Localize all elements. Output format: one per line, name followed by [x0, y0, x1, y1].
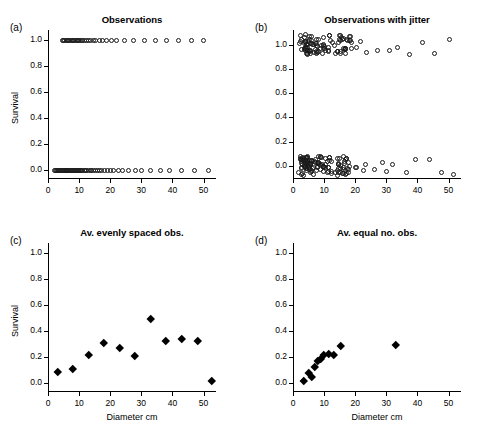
y-axis-title-a: Survival — [10, 92, 20, 124]
x-tick-a-0 — [48, 179, 49, 183]
panel-label-c: (c) — [10, 235, 22, 246]
x-tick-label-a-2: 20 — [98, 185, 122, 195]
y-tick-d-5 — [289, 253, 293, 254]
data-point-c-5 — [131, 352, 139, 360]
y-tick-b-4 — [289, 69, 293, 70]
data-point-a-46 — [120, 168, 125, 173]
x-tick-b-0 — [293, 179, 294, 183]
y-tick-c-4 — [44, 279, 48, 280]
y-tick-label-a-5: 1.0 — [14, 34, 42, 44]
y-tick-label-b-5: 1.0 — [259, 39, 287, 49]
y-tick-a-2 — [44, 118, 48, 119]
data-point-a-84 — [122, 38, 127, 43]
data-point-b-extra-149 — [303, 46, 308, 51]
data-point-b-extra-20 — [349, 46, 354, 51]
x-tick-d-4 — [417, 392, 418, 396]
y-tick-b-3 — [289, 93, 293, 94]
data-point-b-87 — [395, 45, 400, 50]
panel-title-b: Observations with jitter — [293, 14, 461, 25]
x-tick-a-1 — [79, 179, 80, 183]
x-tick-b-5 — [449, 179, 450, 183]
data-point-b-45 — [361, 168, 366, 173]
y-tick-label-c-4: 0.8 — [14, 273, 42, 283]
x-tick-c-0 — [48, 392, 49, 396]
y-tick-label-c-0: 0.0 — [14, 377, 42, 387]
y-tick-label-a-0: 0.0 — [14, 164, 42, 174]
y-tick-label-d-0: 0.0 — [259, 377, 287, 387]
data-point-b-extra-147 — [346, 170, 351, 175]
data-point-c-9 — [193, 336, 201, 344]
data-point-b-54 — [439, 170, 444, 175]
x-tick-d-2 — [355, 392, 356, 396]
data-point-d-9 — [337, 342, 345, 350]
y-tick-label-d-2: 0.4 — [259, 325, 287, 335]
x-tick-label-c-3: 30 — [129, 398, 153, 408]
data-point-c-8 — [178, 335, 186, 343]
y-tick-label-b-0: 0.0 — [259, 160, 287, 170]
data-point-b-48 — [380, 160, 385, 165]
data-point-a-89 — [176, 38, 181, 43]
panel-label-d: (d) — [255, 235, 267, 246]
x-tick-label-c-4: 40 — [160, 398, 184, 408]
data-point-b-90 — [432, 51, 437, 56]
x-axis-line-a — [48, 178, 216, 179]
x-tick-label-b-4: 40 — [405, 185, 429, 195]
data-point-b-extra-130 — [342, 159, 347, 164]
y-tick-label-b-2: 0.4 — [259, 111, 287, 121]
x-tick-c-1 — [79, 392, 80, 396]
data-point-a-91 — [201, 38, 206, 43]
x-tick-label-a-4: 40 — [160, 185, 184, 195]
data-point-b-83 — [358, 39, 363, 44]
data-point-b-89 — [420, 40, 425, 45]
x-tick-b-1 — [324, 179, 325, 183]
x-tick-label-b-5: 50 — [437, 185, 461, 195]
data-point-c-0 — [53, 368, 61, 376]
y-tick-c-0 — [44, 383, 48, 384]
y-axis-line-b — [293, 30, 294, 178]
y-tick-b-5 — [289, 45, 293, 46]
x-tick-d-3 — [386, 392, 387, 396]
y-tick-d-4 — [289, 279, 293, 280]
x-tick-label-a-0: 0 — [36, 185, 60, 195]
x-tick-c-3 — [141, 392, 142, 396]
y-tick-label-c-1: 0.2 — [14, 351, 42, 361]
data-point-a-86 — [142, 38, 147, 43]
figure-panel-grid: (a)Observations0.00.20.40.60.81.00102030… — [0, 0, 497, 436]
data-point-a-90 — [189, 38, 194, 43]
y-tick-a-4 — [44, 66, 48, 67]
data-point-b-46 — [363, 162, 368, 167]
y-tick-d-1 — [289, 357, 293, 358]
x-tick-c-4 — [172, 392, 173, 396]
y-tick-label-d-1: 0.2 — [259, 351, 287, 361]
x-tick-label-c-1: 10 — [67, 398, 91, 408]
panel-title-d: Av. equal no. obs. — [293, 227, 461, 238]
y-tick-label-b-4: 0.8 — [259, 63, 287, 73]
data-point-b-86 — [387, 48, 392, 53]
y-tick-c-3 — [44, 305, 48, 306]
data-point-a-82 — [109, 38, 114, 43]
data-point-b-extra-54 — [299, 172, 304, 177]
data-point-b-extra-121 — [320, 51, 325, 56]
x-tick-label-c-5: 50 — [192, 398, 216, 408]
x-tick-label-a-3: 30 — [129, 185, 153, 195]
y-tick-label-c-5: 1.0 — [14, 247, 42, 257]
y-tick-a-0 — [44, 170, 48, 171]
x-tick-d-5 — [449, 392, 450, 396]
data-point-b-extra-142 — [341, 165, 346, 170]
data-point-b-47 — [372, 167, 377, 172]
data-point-b-79 — [343, 51, 348, 56]
data-point-b-extra-31 — [321, 35, 326, 40]
panel-label-a: (a) — [10, 22, 22, 33]
data-point-b-extra-131 — [316, 37, 321, 42]
panel-title-c: Av. evenly spaced obs. — [48, 227, 216, 238]
data-point-a-52 — [167, 168, 172, 173]
x-tick-label-d-2: 20 — [343, 398, 367, 408]
data-point-b-55 — [451, 172, 456, 177]
x-axis-line-d — [293, 391, 461, 392]
data-point-b-44 — [353, 165, 358, 170]
x-tick-label-d-4: 40 — [405, 398, 429, 408]
data-point-b-extra-64 — [329, 171, 334, 176]
data-point-b-extra-124 — [298, 154, 303, 159]
x-axis-line-b — [293, 178, 461, 179]
data-point-b-50 — [390, 162, 395, 167]
